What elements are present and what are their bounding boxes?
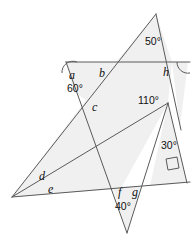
label-angle-30: 30° <box>161 139 177 151</box>
label-c: c <box>92 100 98 114</box>
label-angle-50: 50° <box>145 35 161 47</box>
label-a: a <box>69 68 75 82</box>
region-right-upper-sliver <box>172 62 188 126</box>
label-angle-40: 40° <box>115 200 131 212</box>
label-d: d <box>39 169 46 183</box>
label-e: e <box>48 182 54 196</box>
label-g: g <box>132 185 138 199</box>
geometry-figure: a b h c d e f g 50° 60° 110° 30° 40° <box>0 0 195 238</box>
label-angle-110: 110° <box>138 94 159 106</box>
label-angle-60: 60° <box>67 82 83 94</box>
label-b: b <box>99 66 105 80</box>
label-h: h <box>163 65 169 79</box>
geometry-canvas: a b h c d e f g 50° 60° 110° 30° 40° <box>0 0 195 238</box>
